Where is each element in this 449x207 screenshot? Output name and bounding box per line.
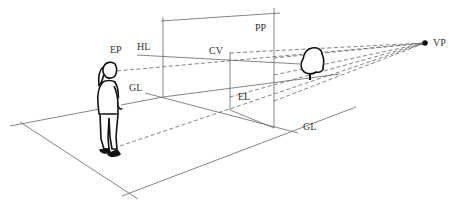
ground-front-edge bbox=[122, 107, 356, 196]
ground-near-edge bbox=[10, 97, 163, 126]
construction-lines bbox=[10, 8, 356, 199]
label-gl-left: GL bbox=[129, 83, 142, 93]
label-gl-right: GL bbox=[303, 122, 316, 132]
ray-3 bbox=[274, 43, 425, 75]
ground-left-edge bbox=[20, 122, 138, 199]
ray-6 bbox=[274, 43, 425, 101]
cv-back-line bbox=[230, 110, 274, 128]
label-el: EL bbox=[238, 92, 250, 102]
perspective-diagram bbox=[0, 0, 449, 207]
label-hl: HL bbox=[137, 42, 150, 52]
label-cv: CV bbox=[209, 46, 223, 56]
ground-line bbox=[145, 93, 298, 133]
label-ep: EP bbox=[110, 45, 122, 55]
label-pp: PP bbox=[255, 23, 266, 33]
picture-plane-top bbox=[161, 13, 280, 21]
label-vp: VP bbox=[433, 38, 446, 48]
tree-icon bbox=[301, 48, 324, 80]
vanishing-point-dot bbox=[422, 40, 428, 46]
person-icon bbox=[98, 62, 122, 156]
ray-5 bbox=[120, 43, 425, 146]
